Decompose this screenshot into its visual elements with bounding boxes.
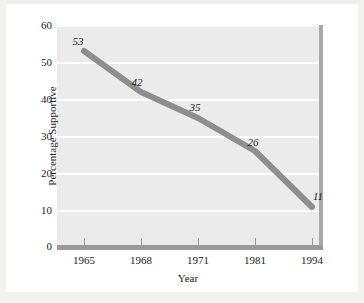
gridline-20 bbox=[57, 173, 319, 175]
plot-right-border bbox=[319, 25, 323, 249]
line-chart: 60 50 40 30 20 10 0 Percentage Supportiv… bbox=[0, 0, 364, 303]
x-tick-label-1994: 1994 bbox=[288, 254, 336, 266]
gridline-60 bbox=[57, 25, 319, 27]
point-label-1971: 35 bbox=[180, 101, 210, 113]
gridline-10 bbox=[57, 210, 319, 212]
gridline-30 bbox=[57, 136, 319, 138]
x-axis-line bbox=[57, 245, 323, 250]
x-tick-1994 bbox=[312, 238, 313, 245]
y-tick-label-10: 10 bbox=[28, 205, 52, 216]
plot-area bbox=[57, 25, 319, 247]
y-axis-title: Percentage Supportive bbox=[46, 66, 58, 206]
y-axis-title-wrapper: Percentage Supportive bbox=[22, 30, 23, 31]
gridline-50 bbox=[57, 62, 319, 64]
point-label-1994: 11 bbox=[303, 190, 333, 202]
x-tick-1968 bbox=[141, 238, 142, 245]
x-tick-1965 bbox=[84, 238, 85, 245]
y-tick-label-0: 0 bbox=[28, 241, 52, 252]
figure-root: 60 50 40 30 20 10 0 Percentage Supportiv… bbox=[0, 0, 364, 303]
x-tick-label-1965: 1965 bbox=[60, 254, 108, 266]
x-tick-label-1968: 1968 bbox=[117, 254, 165, 266]
x-tick-1971 bbox=[198, 238, 199, 245]
x-tick-label-1971: 1971 bbox=[174, 254, 222, 266]
y-tick-label-60: 60 bbox=[28, 20, 52, 31]
x-axis-title: Year bbox=[57, 272, 319, 284]
x-tick-label-1981: 1981 bbox=[231, 254, 279, 266]
point-label-1968: 42 bbox=[122, 76, 152, 88]
x-tick-1981 bbox=[255, 238, 256, 245]
point-label-1981: 26 bbox=[238, 136, 268, 148]
point-label-1965: 53 bbox=[63, 35, 93, 47]
